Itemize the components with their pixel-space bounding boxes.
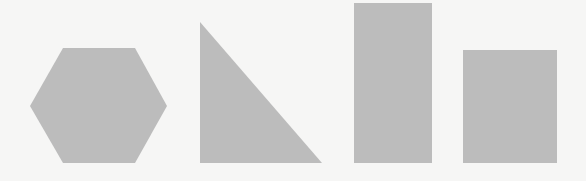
tall-rectangle-shape [354, 3, 432, 163]
square-shape [463, 50, 557, 163]
shapes-canvas [0, 0, 586, 181]
hexagon-shape [30, 48, 167, 163]
triangle-shape [200, 22, 322, 163]
